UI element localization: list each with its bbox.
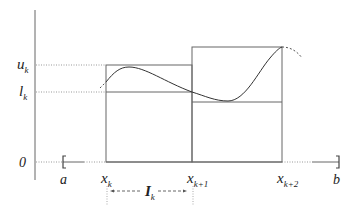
step-function-diagram: uk lk 0 a b xk xk+1 xk+2 Ik — [0, 0, 357, 217]
label-x-k2: xk+2 — [276, 170, 299, 189]
label-x-k1: xk+1 — [186, 170, 208, 189]
function-curve — [106, 47, 282, 101]
upper-box-k — [106, 65, 192, 162]
label-b: b — [333, 172, 340, 187]
arrowhead-left — [110, 190, 114, 193]
label-l-k: lk — [19, 83, 28, 102]
label-zero: 0 — [19, 155, 26, 170]
label-x-k: xk — [100, 170, 113, 189]
label-I-k: Ik — [144, 183, 156, 202]
arrowhead-right — [183, 190, 187, 193]
dashed-curve-start — [100, 82, 106, 88]
dashed-curve-end — [282, 47, 302, 58]
label-a: a — [60, 172, 67, 187]
label-u-k: uk — [17, 56, 30, 75]
upper-box-k1 — [192, 47, 282, 162]
